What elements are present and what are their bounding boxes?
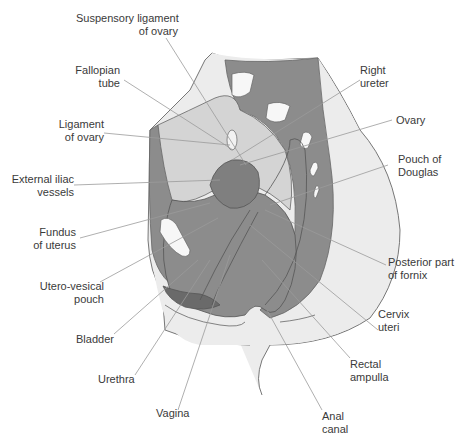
label-vagina: Vagina [156, 407, 189, 420]
label-fallopian-tube: Fallopian tube [64, 64, 120, 90]
label-pouch-of-douglas: Pouch of Douglas [398, 153, 441, 179]
label-bladder: Bladder [76, 333, 114, 346]
label-posterior-fornix: Posterior part of fornix [388, 256, 454, 282]
label-urethra: Urethra [98, 373, 135, 386]
label-anal-canal: Anal canal [322, 410, 348, 436]
label-utero-vesical-pouch: Utero-vesical pouch [20, 280, 104, 306]
label-right-ureter: Right ureter [360, 64, 389, 90]
label-ovary: Ovary [396, 114, 425, 127]
label-rectal-ampulla: Rectal ampulla [350, 358, 389, 384]
label-external-iliac-vessels: External iliac vessels [8, 173, 74, 199]
label-fundus-of-uterus: Fundus of uterus [20, 226, 76, 252]
label-ligament-of-ovary: Ligament of ovary [50, 118, 104, 144]
pelvis-diagram: Suspensory ligament of ovary Fallopian t… [0, 0, 459, 441]
label-cervix-uteri: Cervix uteri [378, 308, 409, 334]
label-suspensory-ligament: Suspensory ligament of ovary [76, 12, 178, 38]
